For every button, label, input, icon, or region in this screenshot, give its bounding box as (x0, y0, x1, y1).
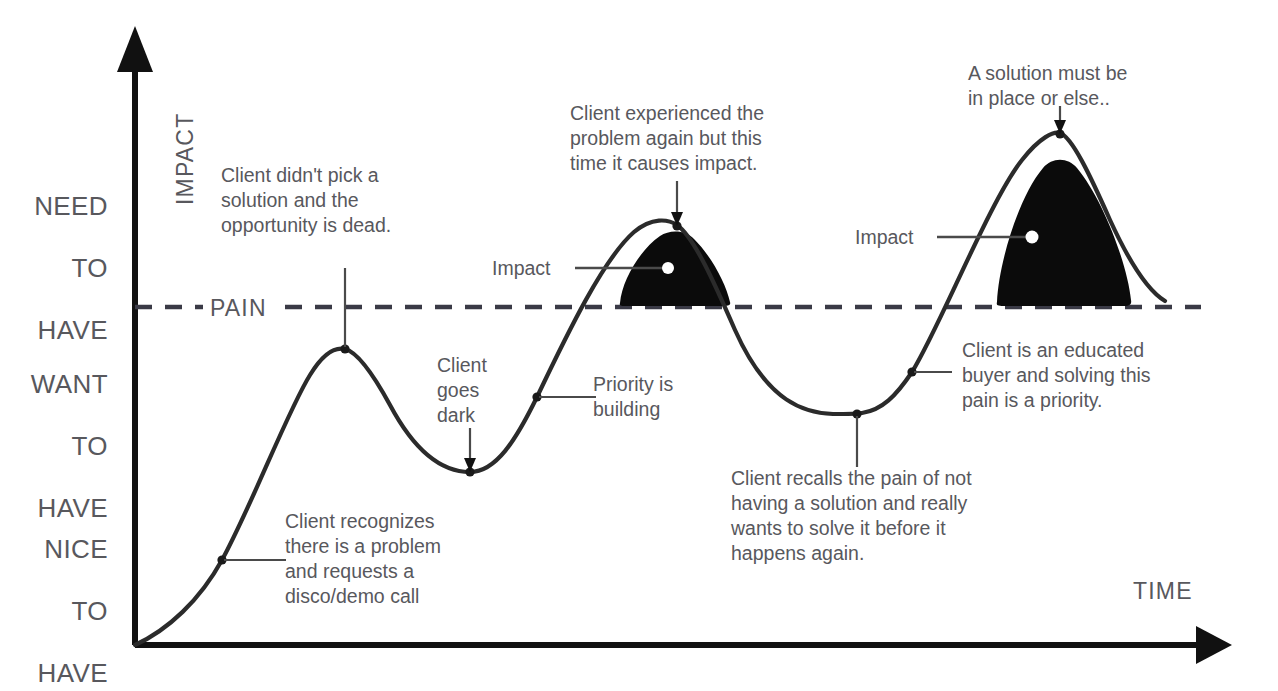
y-axis-title: IMPACT (172, 113, 199, 205)
annotation-priority-building: Priority is building (593, 372, 733, 422)
annotation-educated-buyer: Client is an educated buyer and solving … (962, 338, 1192, 413)
impact-area-2 (997, 160, 1131, 306)
annotation-impact-1: Impact (492, 256, 582, 281)
annotation-experienced-again: Client experienced the problem again but… (570, 101, 820, 176)
y-axis-arrow-icon (117, 26, 153, 72)
impact-1-pin-icon (662, 262, 674, 274)
annotation-impact-2: Impact (855, 225, 945, 250)
x-axis-arrow-icon (1196, 626, 1232, 664)
impact-2-pin-icon (1026, 231, 1039, 244)
chart-canvas: NEED TO HAVE WANT TO HAVE NICE TO HAVE I… (0, 0, 1278, 691)
annotation-client-recognizes: Client recognizes there is a problem and… (285, 509, 495, 609)
annotation-recalls-pain: Client recalls the pain of not having a … (731, 466, 1021, 566)
y-category-nice-line2: TO (38, 596, 108, 627)
y-category-need-line2: TO (34, 253, 108, 284)
y-category-need-line1: NEED (34, 191, 108, 222)
annotation-goes-dark: Client goes dark (437, 353, 517, 428)
y-category-nice-to-have: NICE TO HAVE (38, 503, 108, 691)
annotation-didnt-pick: Client didn't pick a solution and the op… (221, 163, 451, 238)
x-axis-title: TIME (1133, 578, 1193, 605)
y-category-want-line1: WANT (31, 369, 108, 400)
pain-threshold-label: PAIN (203, 295, 274, 322)
y-category-nice-line3: HAVE (38, 658, 108, 689)
annotation-solution-must-be: A solution must be in place or else.. (968, 61, 1188, 111)
y-category-want-line2: TO (31, 431, 108, 462)
y-category-nice-line1: NICE (38, 534, 108, 565)
